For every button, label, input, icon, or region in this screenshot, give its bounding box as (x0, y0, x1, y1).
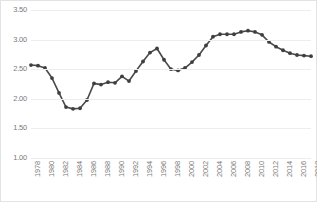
x-axis-tick-label: 2014 (286, 161, 294, 177)
data-point-marker (57, 91, 61, 95)
data-point-marker (239, 30, 243, 34)
x-axis-tick-label: 1992 (132, 161, 140, 177)
x-axis-tick-label: 1990 (118, 161, 126, 177)
data-point-marker (127, 79, 131, 83)
x-axis-tick-label: 2000 (188, 161, 196, 177)
gridline (31, 40, 311, 41)
x-axis-tick-label: 1988 (104, 161, 112, 177)
line-series (31, 10, 311, 158)
x-axis-tick-label: 1980 (48, 161, 56, 177)
data-point-marker (36, 64, 40, 68)
data-point-marker (218, 32, 222, 36)
x-axis-tick-label: 2006 (230, 161, 238, 177)
x-axis-tick-label: 2002 (202, 161, 210, 177)
x-axis-tick-label: 2018 (314, 161, 317, 177)
x-axis-tick-label: 1984 (76, 161, 84, 177)
data-point-marker (232, 32, 236, 36)
y-axis-tick-label: 1.00 (3, 154, 27, 162)
data-point-marker (260, 33, 264, 37)
gridline (31, 69, 311, 70)
data-point-marker (71, 107, 75, 111)
data-point-marker (309, 54, 313, 58)
data-point-marker (64, 105, 68, 109)
gridline (31, 128, 311, 129)
data-point-marker (162, 58, 166, 62)
x-axis-tick-label: 1998 (174, 161, 182, 177)
data-point-marker (302, 54, 306, 58)
data-point-marker (120, 74, 124, 78)
data-point-marker (204, 44, 208, 48)
x-axis-tick-label: 2004 (216, 161, 224, 177)
y-axis-tick-label: 1.50 (3, 124, 27, 132)
y-axis-tick-label: 3.00 (3, 36, 27, 44)
plot-area (31, 10, 311, 158)
data-point-marker (155, 47, 159, 51)
x-axis-tick-label: 1978 (34, 161, 42, 177)
chart-container: 1978198019821984198619881990199219941996… (0, 0, 317, 202)
data-point-marker (225, 32, 229, 36)
gridline (31, 99, 311, 100)
data-point-marker (211, 35, 215, 39)
data-point-marker (253, 30, 257, 34)
data-point-marker (288, 51, 292, 55)
data-point-marker (148, 51, 152, 55)
x-axis-tick-label: 2016 (300, 161, 308, 177)
x-axis-tick-label: 2008 (244, 161, 252, 177)
data-point-marker (246, 29, 250, 33)
x-axis-labels: 1978198019821984198619881990199219941996… (31, 161, 311, 201)
data-point-marker (106, 80, 110, 84)
data-point-marker (267, 40, 271, 44)
data-point-marker (29, 63, 33, 67)
x-axis-tick-label: 2012 (272, 161, 280, 177)
x-axis-tick-label: 1986 (90, 161, 98, 177)
data-point-marker (274, 45, 278, 49)
data-point-marker (50, 76, 54, 80)
data-point-marker (99, 83, 103, 87)
data-point-marker (92, 82, 96, 86)
x-axis-tick-label: 2010 (258, 161, 266, 177)
y-axis-tick-label: 2.00 (3, 95, 27, 103)
data-point-marker (281, 48, 285, 52)
x-axis-tick-label: 1994 (146, 161, 154, 177)
y-axis-tick-label: 3.50 (3, 6, 27, 14)
data-point-marker (197, 53, 201, 57)
data-point-marker (295, 53, 299, 57)
data-point-marker (141, 60, 145, 64)
gridline (31, 10, 311, 11)
y-axis-tick-label: 2.50 (3, 65, 27, 73)
x-axis-tick-label: 1996 (160, 161, 168, 177)
data-point-marker (113, 81, 117, 85)
data-point-marker (78, 106, 82, 110)
data-point-marker (190, 60, 194, 64)
x-axis-tick-label: 1982 (62, 161, 70, 177)
gridline (31, 158, 311, 159)
